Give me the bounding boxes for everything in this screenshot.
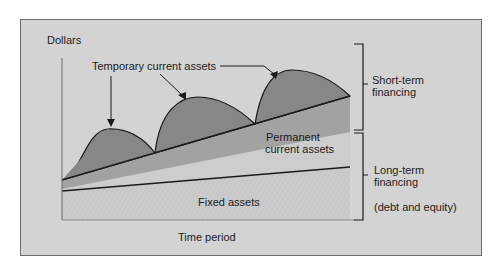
arrow-head-2: [178, 92, 186, 100]
arrow-line-3: [220, 66, 274, 74]
short-term-bracket: [354, 44, 363, 130]
permanent-label-line1: Permanent: [266, 131, 320, 143]
x-axis-label: Time period: [178, 231, 236, 243]
long-term-label-line1: Long-term: [374, 164, 424, 176]
short-term-label-line2: financing: [372, 86, 416, 98]
fixed-assets-label: Fixed assets: [198, 196, 260, 208]
arrow-line-2: [160, 74, 183, 96]
permanent-label-line2: current assets: [265, 143, 334, 155]
long-term-note: (debt and equity): [374, 201, 457, 213]
short-term-label-line1: Short-term: [372, 74, 424, 86]
long-term-label-line2: financing: [374, 176, 418, 188]
long-term-bracket: [354, 133, 363, 220]
temporary-current-assets-label: Temporary current assets: [92, 60, 216, 72]
y-axis-label: Dollars: [47, 34, 81, 46]
arrow-head-1: [107, 119, 115, 127]
